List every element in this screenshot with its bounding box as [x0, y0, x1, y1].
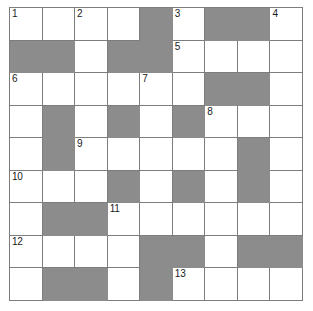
cell-number: 3 — [175, 8, 180, 20]
crossword-cell[interactable]: 1 — [10, 8, 43, 41]
crossword-cell[interactable]: 6 — [10, 73, 43, 106]
crossword-cell[interactable] — [270, 73, 303, 106]
crossword-cell[interactable] — [205, 203, 238, 236]
crossword-cell[interactable] — [173, 203, 206, 236]
crossword-cell[interactable]: 4 — [270, 8, 303, 41]
crossword-cell[interactable] — [270, 171, 303, 204]
crossword-cell[interactable] — [75, 73, 108, 106]
crossword-cell[interactable] — [108, 236, 141, 269]
crossword-cell-blocked — [238, 8, 271, 41]
crossword-cell[interactable] — [10, 138, 43, 171]
crossword-cell-blocked — [173, 106, 206, 139]
cell-number: 12 — [12, 236, 23, 248]
crossword-cell-blocked — [173, 236, 206, 269]
crossword-cell[interactable] — [108, 138, 141, 171]
crossword-cell[interactable] — [270, 41, 303, 74]
crossword-cell[interactable] — [173, 138, 206, 171]
crossword-cell-blocked — [238, 138, 271, 171]
crossword-cell[interactable] — [140, 138, 173, 171]
crossword-cell-blocked — [205, 73, 238, 106]
cell-number: 10 — [12, 171, 23, 183]
crossword-cell-blocked — [140, 268, 173, 301]
crossword-cell-blocked — [75, 203, 108, 236]
crossword-cell[interactable] — [238, 106, 271, 139]
crossword-cell-blocked — [108, 41, 141, 74]
cell-number: 11 — [110, 203, 120, 215]
crossword-cell[interactable] — [205, 268, 238, 301]
crossword-cell[interactable] — [75, 236, 108, 269]
crossword-cell[interactable]: 3 — [173, 8, 206, 41]
cell-number: 2 — [77, 8, 82, 20]
crossword-cell[interactable] — [238, 41, 271, 74]
crossword-cell[interactable] — [238, 268, 271, 301]
crossword-cell-blocked — [75, 268, 108, 301]
crossword-cell-blocked — [270, 236, 303, 269]
crossword-cell[interactable] — [108, 268, 141, 301]
crossword-cell[interactable] — [205, 138, 238, 171]
crossword-cell[interactable] — [10, 203, 43, 236]
crossword-cell-blocked — [43, 41, 76, 74]
cell-number: 1 — [12, 8, 17, 20]
crossword-container: 12345678910111213 — [0, 0, 313, 311]
crossword-cell[interactable] — [270, 203, 303, 236]
crossword-grid: 12345678910111213 — [9, 7, 303, 301]
crossword-cell[interactable] — [270, 106, 303, 139]
crossword-cell-blocked — [205, 8, 238, 41]
crossword-cell-blocked — [140, 8, 173, 41]
crossword-cell[interactable] — [75, 106, 108, 139]
crossword-cell-blocked — [238, 73, 271, 106]
cell-number: 13 — [175, 268, 186, 280]
crossword-cell[interactable]: 9 — [75, 138, 108, 171]
crossword-cell[interactable] — [43, 8, 76, 41]
crossword-cell[interactable]: 7 — [140, 73, 173, 106]
crossword-cell[interactable]: 13 — [173, 268, 206, 301]
crossword-cell-blocked — [108, 106, 141, 139]
cell-number: 8 — [207, 106, 212, 118]
crossword-cell[interactable] — [205, 41, 238, 74]
crossword-cell[interactable] — [43, 171, 76, 204]
cell-number: 4 — [272, 8, 277, 20]
crossword-cell[interactable] — [75, 41, 108, 74]
crossword-cell[interactable]: 8 — [205, 106, 238, 139]
crossword-cell-blocked — [43, 138, 76, 171]
crossword-cell[interactable] — [238, 203, 271, 236]
crossword-cell[interactable] — [270, 268, 303, 301]
crossword-cell-blocked — [43, 268, 76, 301]
crossword-cell[interactable] — [205, 236, 238, 269]
crossword-cell[interactable] — [10, 268, 43, 301]
crossword-cell-blocked — [43, 203, 76, 236]
crossword-cell-blocked — [238, 171, 271, 204]
crossword-cell[interactable]: 2 — [75, 8, 108, 41]
crossword-cell[interactable]: 5 — [173, 41, 206, 74]
crossword-cell-blocked — [238, 236, 271, 269]
crossword-cell-blocked — [140, 236, 173, 269]
crossword-cell-blocked — [43, 106, 76, 139]
cell-number: 6 — [12, 73, 17, 85]
crossword-cell[interactable]: 11 — [108, 203, 141, 236]
crossword-cell[interactable] — [43, 73, 76, 106]
crossword-cell[interactable] — [108, 73, 141, 106]
crossword-cell-blocked — [10, 41, 43, 74]
crossword-cell-blocked — [108, 171, 141, 204]
crossword-cell[interactable] — [108, 8, 141, 41]
crossword-cell-blocked — [173, 171, 206, 204]
crossword-cell-blocked — [140, 41, 173, 74]
crossword-cell[interactable] — [140, 106, 173, 139]
crossword-cell[interactable] — [140, 203, 173, 236]
crossword-cell[interactable] — [43, 236, 76, 269]
cell-number: 5 — [175, 41, 180, 53]
crossword-cell[interactable] — [173, 73, 206, 106]
crossword-cell[interactable] — [140, 171, 173, 204]
cell-number: 7 — [142, 73, 147, 85]
crossword-cell[interactable] — [205, 171, 238, 204]
crossword-cell[interactable]: 12 — [10, 236, 43, 269]
crossword-cell[interactable]: 10 — [10, 171, 43, 204]
cell-number: 9 — [77, 138, 82, 150]
crossword-cell[interactable] — [270, 138, 303, 171]
crossword-cell[interactable] — [10, 106, 43, 139]
crossword-cell[interactable] — [75, 171, 108, 204]
